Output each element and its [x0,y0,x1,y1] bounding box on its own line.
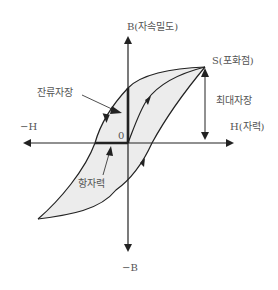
neg-h-axis-label: −H [20,121,37,132]
saturation-label: S(포화점) [212,55,254,66]
max-field-arrow-bottom-icon [201,132,209,140]
remanence-label: 잔류자장 [37,87,73,98]
remanence-pointer [82,95,114,110]
max-field-label: 최대자장 [216,95,252,106]
coercivity-label: 항자력 [78,178,105,189]
hysteresis-diagram: B(자속밀도) −B H(자력) −H 0 S(포화점) 최대자장 잔류자장 항… [0,0,278,290]
origin-label: 0 [118,130,124,141]
b-axis-label: B(자속밀도) [127,21,178,32]
h-axis-label: H(자력) [230,121,265,132]
neg-b-axis-label: −B [122,262,138,273]
